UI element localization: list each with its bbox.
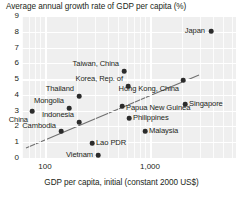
data-point-label: Taiwan, China (73, 60, 119, 68)
gridline-vertical (40, 16, 41, 158)
data-point-label: Malaysia (149, 127, 178, 135)
gridline-horizontal (22, 48, 236, 49)
data-point-label: Cambodia (22, 122, 56, 130)
data-point-label: Singapore (189, 100, 223, 108)
data-point-label: Hong Kong, China (119, 85, 179, 93)
y-axis-tick-label: 3 (15, 107, 19, 115)
data-point-label: Mongolia (34, 97, 64, 105)
data-point[interactable] (59, 129, 64, 134)
y-axis-tick-label: 4 (15, 91, 19, 99)
gridline-vertical (77, 16, 78, 158)
gdp-growth-scatter-chart: Average annual growth rate of GDP per ca… (0, 0, 243, 198)
data-point[interactable] (209, 29, 214, 34)
data-point-label: Philippines (133, 114, 169, 122)
y-axis-tick-label: 6 (15, 59, 19, 67)
data-point[interactable] (181, 78, 186, 83)
data-point-label: Lao PDR (96, 139, 126, 147)
data-point-label: Vietnam (66, 151, 93, 159)
gridline-horizontal (22, 16, 236, 17)
y-axis: 0123456789 (6, 16, 19, 158)
data-point-label: Thailand (46, 85, 74, 93)
data-point[interactable] (143, 129, 148, 134)
data-point[interactable] (30, 109, 35, 114)
data-point[interactable] (122, 69, 127, 74)
y-axis-tick-label: 5 (15, 75, 19, 83)
gridline-vertical (35, 16, 36, 158)
y-axis-tick-label: 0 (15, 154, 19, 162)
gridline-horizontal (22, 63, 236, 64)
data-point[interactable] (77, 94, 82, 99)
y-axis-tick-label: 7 (15, 44, 19, 52)
data-point-label: Japan (185, 27, 205, 35)
gridline-vertical (182, 16, 183, 158)
gridline-vertical (223, 16, 224, 158)
gridline-vertical (213, 16, 214, 158)
gridline-vertical (200, 16, 201, 158)
data-point[interactable] (77, 120, 82, 125)
x-axis-tick-label: 1,000 (140, 162, 160, 171)
gridline-vertical (95, 16, 96, 158)
gridline-horizontal (22, 142, 236, 143)
data-point-label: Korea, Rep. of (75, 75, 123, 83)
gridline-vertical (22, 16, 23, 158)
data-point-label: Indonesia (42, 111, 74, 119)
x-axis-title: GDP per capita, initial (constant 2000 U… (0, 178, 243, 188)
y-axis-tick-label: 1 (15, 138, 19, 146)
data-point[interactable] (90, 141, 95, 146)
gridline-vertical (29, 16, 30, 158)
y-axis-tick-label: 8 (15, 28, 19, 36)
data-point[interactable] (96, 153, 101, 158)
gridline-vertical (108, 16, 109, 158)
data-point-label: Papua New Guinea (126, 104, 190, 112)
x-axis: 1001,000 (22, 162, 236, 173)
data-point[interactable] (127, 116, 132, 121)
x-axis-tick-label: 100 (38, 162, 51, 171)
y-axis-tick-label: 9 (15, 12, 19, 20)
gridline-vertical (232, 16, 233, 158)
chart-title: Average annual growth rate of GDP per ca… (6, 2, 186, 12)
data-point[interactable] (120, 104, 125, 109)
gridline-horizontal (22, 79, 236, 81)
